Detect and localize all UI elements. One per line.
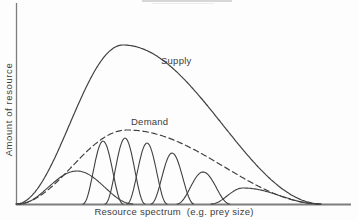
species-utilization-2-curve	[83, 141, 123, 204]
plot-canvas	[0, 0, 358, 220]
species-utilization-6-curve	[177, 172, 230, 204]
demand-curve-label: Demand	[131, 116, 168, 127]
species-utilization-3-curve	[105, 138, 145, 204]
supply-curve	[16, 45, 321, 204]
species-utilization-5-curve	[151, 153, 194, 204]
y-axis-label: Amount of resource	[3, 60, 14, 160]
species-utilization-4-curve	[127, 143, 167, 204]
x-axis-label: Resource spectrum (e.g. prey size)	[49, 206, 299, 217]
supply-curve-label: Supply	[161, 55, 192, 66]
resource-spectrum-diagram: Supply Demand Amount of resource Resourc…	[0, 0, 358, 220]
